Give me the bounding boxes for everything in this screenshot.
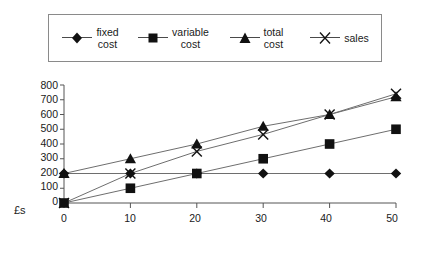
cross-marker-icon [310, 29, 340, 47]
series-line-variable-cost [64, 129, 396, 203]
square-marker-icon [138, 29, 168, 47]
triangle-marker-icon [230, 29, 260, 47]
legend-label-fixed-cost: fixedcost [96, 26, 118, 50]
legend-entry-sales: sales [298, 29, 381, 47]
legend-entry-fixed-cost: fixedcost [49, 26, 132, 50]
legend-label-sales: sales [344, 32, 369, 44]
legend-label-line1: sales [344, 32, 369, 44]
legend-label-total-cost: totalcost [264, 26, 284, 50]
x-tick-marks [64, 203, 396, 208]
y-tick-marks [60, 85, 64, 203]
legend-label-line2: cost [264, 38, 283, 50]
chart-container: fixedcost variablecost totalcost [0, 0, 430, 266]
plot-area: £s 800 700 600 500 400 300 200 100 0 0 1… [0, 72, 430, 266]
legend-label-line2: cost [98, 38, 117, 50]
diamond-marker-icon [62, 29, 92, 47]
legend-label-line1: variable [172, 26, 209, 38]
series-line-total-cost [64, 97, 396, 174]
legend-label-line1: fixed [96, 26, 118, 38]
legend-entry-total-cost: totalcost [215, 26, 298, 50]
legend-label-line1: total [264, 26, 284, 38]
chart-legend: fixedcost variablecost totalcost [48, 14, 382, 62]
plot-svg [0, 72, 430, 266]
legend-label-variable-cost: variablecost [172, 26, 209, 50]
series-markers-sales [59, 89, 401, 208]
legend-entry-variable-cost: variablecost [132, 26, 215, 50]
legend-label-line2: cost [181, 38, 200, 50]
